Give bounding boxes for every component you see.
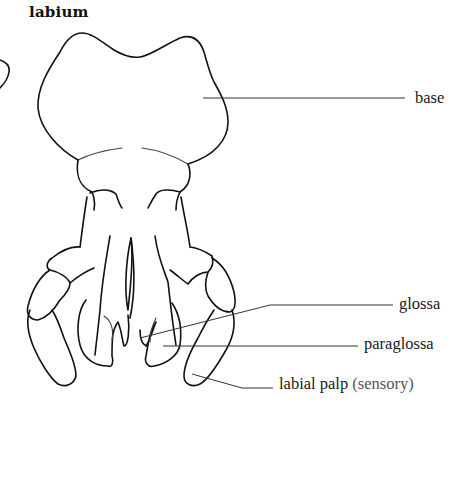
leader-glossa <box>140 305 393 338</box>
label-labial-palp: labial palp (sensory) <box>279 374 414 394</box>
collar-right <box>176 164 190 210</box>
palp-right-seg3 <box>184 310 234 386</box>
base-inner-left <box>78 148 122 160</box>
labium-diagram: labium <box>0 0 452 477</box>
palp-left-seg1 <box>47 247 94 283</box>
base-inner-right <box>142 148 188 164</box>
label-glossa: glossa <box>399 294 440 314</box>
paraglossa-left <box>78 300 129 366</box>
label-labial-palp-text: labial palp <box>279 374 348 393</box>
labium-drawing <box>0 0 452 477</box>
collar-bottom-right <box>148 190 180 208</box>
prementum-right-side <box>181 197 190 247</box>
inner-line-right <box>155 236 176 345</box>
paraglossa-left-detail <box>104 316 113 340</box>
label-base: base <box>415 88 444 108</box>
palp-right-seg2 <box>206 258 236 312</box>
base-outline <box>38 33 228 164</box>
adjacent-structure-fragment <box>0 60 9 88</box>
label-paraglossa: paraglossa <box>364 334 434 354</box>
prementum-left-side <box>80 197 87 247</box>
glossa-slit <box>126 238 132 310</box>
label-labial-palp-note: (sensory) <box>352 374 413 393</box>
palp-left-seg3 <box>28 310 76 386</box>
inner-line-left <box>95 236 110 355</box>
palp-left-seg2 <box>27 270 70 320</box>
